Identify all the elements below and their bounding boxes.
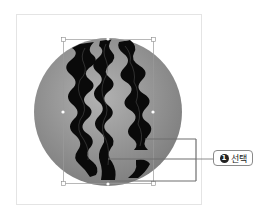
illustration-canvas: 1 선택 bbox=[0, 0, 271, 213]
callout-label-text: 선택 bbox=[231, 152, 247, 165]
callout-label: 1 선택 bbox=[213, 150, 253, 166]
step-number-badge: 1 bbox=[220, 154, 229, 163]
